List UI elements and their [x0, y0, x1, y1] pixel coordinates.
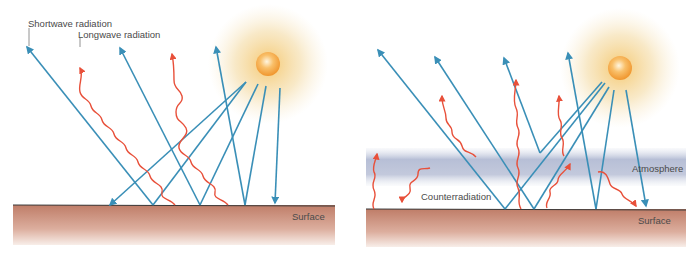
atmosphere-label: Atmosphere [632, 164, 683, 174]
panel-without-atmosphere: Shortwave radiation Longwave radiation S… [0, 0, 346, 259]
longwave-rays [80, 54, 228, 205]
panel-with-atmosphere: Atmosphere Counterradiation Surface [346, 0, 696, 259]
shortwave-radiation-label: Shortwave radiation [28, 19, 112, 29]
surface-label: Surface [292, 212, 325, 222]
surface-ground [13, 205, 335, 245]
sun-icon [256, 52, 280, 76]
longwave-radiation-label: Longwave radiation [78, 30, 160, 40]
sun-icon [608, 56, 632, 80]
surface-label: Surface [638, 216, 671, 226]
counterradiation-label: Counterradiation [421, 192, 491, 202]
